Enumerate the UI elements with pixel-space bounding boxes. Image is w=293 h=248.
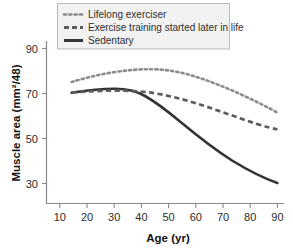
legend-label-lifelong: Lifelong exerciser xyxy=(88,9,167,20)
x-axis-title: Age (yr) xyxy=(146,232,190,244)
legend-label-later: Exercise training started later in life xyxy=(88,22,244,33)
x-tick-label-70: 70 xyxy=(217,211,229,223)
x-tick-label-20: 20 xyxy=(81,211,93,223)
x-tick-labels: 10 20 30 40 50 60 70 80 90 xyxy=(54,211,284,223)
legend-label-sedentary: Sedentary xyxy=(88,35,134,46)
x-tick-label-60: 60 xyxy=(190,211,202,223)
x-tick-label-10: 10 xyxy=(54,211,66,223)
chart-canvas: 90 70 50 30 10 20 30 40 50 60 70 80 90 M… xyxy=(0,0,293,248)
x-tick-label-90: 90 xyxy=(271,211,283,223)
x-tick-label-40: 40 xyxy=(135,211,147,223)
muscle-area-vs-age-chart: 90 70 50 30 10 20 30 40 50 60 70 80 90 M… xyxy=(0,0,293,248)
legend: Lifelong exerciser Exercise training sta… xyxy=(58,4,245,50)
y-tick-label-70: 70 xyxy=(26,88,38,100)
axes-group xyxy=(42,41,284,208)
y-tick-label-30: 30 xyxy=(26,178,38,190)
series-line-sedentary xyxy=(72,89,278,183)
x-tick-label-50: 50 xyxy=(162,211,174,223)
x-tick-label-30: 30 xyxy=(108,211,120,223)
y-tick-labels: 90 70 50 30 xyxy=(26,43,38,190)
y-tick-label-90: 90 xyxy=(26,43,38,55)
y-axis-title: Muscle area (mm²/48) xyxy=(10,64,22,181)
data-curves xyxy=(72,69,278,183)
y-tick-label-50: 50 xyxy=(26,133,38,145)
x-tick-label-80: 80 xyxy=(244,211,256,223)
